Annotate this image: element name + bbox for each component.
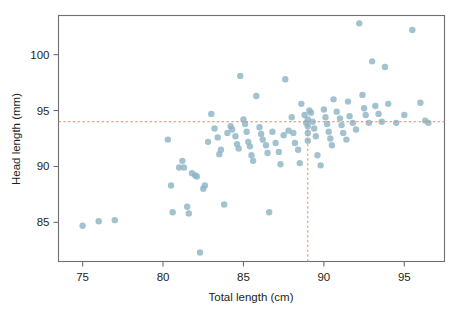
data-point bbox=[359, 92, 365, 98]
data-point bbox=[292, 140, 298, 146]
data-point bbox=[385, 101, 391, 107]
data-point bbox=[329, 142, 335, 148]
scatter-plot-figure: 7580859095 859095100 Total length (cm) H… bbox=[0, 0, 463, 323]
data-point bbox=[184, 204, 190, 210]
data-point bbox=[243, 129, 249, 135]
x-tick-label: 90 bbox=[317, 271, 330, 283]
data-point bbox=[375, 111, 381, 117]
data-point bbox=[263, 142, 269, 148]
data-point bbox=[425, 120, 431, 126]
x-tick-label: 80 bbox=[157, 271, 170, 283]
data-point bbox=[272, 140, 278, 146]
data-point bbox=[282, 76, 288, 82]
data-point bbox=[311, 125, 317, 131]
x-axis-title: Total length (cm) bbox=[208, 291, 293, 303]
data-point bbox=[327, 135, 333, 141]
data-point bbox=[165, 136, 171, 142]
y-tick-label: 85 bbox=[37, 216, 50, 228]
data-point bbox=[321, 106, 327, 112]
data-point bbox=[338, 122, 344, 128]
data-point bbox=[372, 103, 378, 109]
figure-background bbox=[0, 0, 463, 323]
data-point bbox=[289, 114, 295, 120]
x-tick-label: 85 bbox=[237, 271, 250, 283]
chart-canvas: 7580859095 859095100 Total length (cm) H… bbox=[0, 0, 463, 323]
data-point bbox=[409, 27, 415, 33]
data-point bbox=[211, 125, 217, 131]
data-point bbox=[361, 105, 367, 111]
data-point bbox=[202, 182, 208, 188]
data-point bbox=[221, 201, 227, 207]
data-point bbox=[112, 217, 118, 223]
data-point bbox=[181, 164, 187, 170]
data-point bbox=[276, 149, 282, 155]
data-point bbox=[369, 58, 375, 64]
data-point bbox=[208, 111, 214, 117]
data-point bbox=[266, 209, 272, 215]
data-point bbox=[205, 139, 211, 145]
data-point bbox=[280, 132, 286, 138]
y-tick-label: 90 bbox=[37, 160, 50, 172]
data-point bbox=[330, 96, 336, 102]
y-tick-label: 100 bbox=[30, 49, 49, 61]
data-point bbox=[298, 101, 304, 107]
data-point bbox=[269, 129, 275, 135]
data-point bbox=[382, 64, 388, 70]
data-point bbox=[343, 136, 349, 142]
data-point bbox=[290, 130, 296, 136]
data-point bbox=[277, 161, 283, 167]
data-point bbox=[353, 126, 359, 132]
data-point bbox=[229, 126, 235, 132]
data-point bbox=[334, 108, 340, 114]
data-point bbox=[356, 20, 362, 26]
y-tick-label: 95 bbox=[37, 105, 50, 117]
data-point bbox=[317, 162, 323, 168]
data-point bbox=[362, 112, 368, 118]
data-point bbox=[350, 120, 356, 126]
data-point bbox=[297, 160, 303, 166]
y-axis-title: Head length (mm) bbox=[10, 93, 22, 185]
data-point bbox=[345, 98, 351, 104]
data-point bbox=[337, 115, 343, 121]
data-point bbox=[197, 249, 203, 255]
x-tick-label: 75 bbox=[76, 271, 89, 283]
data-point bbox=[169, 209, 175, 215]
data-point bbox=[393, 120, 399, 126]
data-point bbox=[340, 130, 346, 136]
data-point bbox=[314, 152, 320, 158]
data-point bbox=[295, 146, 301, 152]
data-point bbox=[168, 182, 174, 188]
data-point bbox=[308, 110, 314, 116]
data-point bbox=[237, 73, 243, 79]
data-point bbox=[186, 210, 192, 216]
x-tick-label: 95 bbox=[398, 271, 411, 283]
data-point bbox=[322, 114, 328, 120]
data-point bbox=[194, 173, 200, 179]
data-point bbox=[218, 146, 224, 152]
data-point bbox=[264, 150, 270, 156]
data-point bbox=[366, 120, 372, 126]
data-point bbox=[260, 136, 266, 142]
data-point bbox=[256, 124, 262, 130]
data-point bbox=[247, 143, 253, 149]
data-point bbox=[248, 152, 254, 158]
data-point bbox=[313, 133, 319, 139]
data-point bbox=[235, 145, 241, 151]
data-point bbox=[417, 100, 423, 106]
data-point bbox=[96, 218, 102, 224]
data-point bbox=[79, 223, 85, 229]
data-point bbox=[179, 158, 185, 164]
data-point bbox=[232, 133, 238, 139]
data-point bbox=[258, 131, 264, 137]
data-point bbox=[215, 134, 221, 140]
data-point bbox=[346, 113, 352, 119]
data-point bbox=[401, 112, 407, 118]
data-point bbox=[250, 158, 256, 164]
data-point bbox=[253, 93, 259, 99]
data-point bbox=[326, 129, 332, 135]
